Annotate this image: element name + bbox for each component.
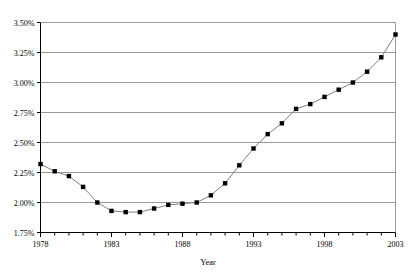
data-point-marker bbox=[81, 185, 85, 189]
data-point-marker bbox=[53, 169, 57, 173]
y-tick-label: 2.75% bbox=[14, 109, 35, 118]
x-tick-label: 1983 bbox=[104, 240, 120, 249]
data-point-marker bbox=[379, 55, 383, 59]
data-point-marker bbox=[322, 95, 326, 99]
y-tick-label: 3.50% bbox=[14, 19, 35, 28]
data-point-marker bbox=[195, 200, 199, 204]
data-point-marker bbox=[38, 162, 42, 166]
line-chart: 1.75%2.00%2.25%2.50%2.75%3.00%3.25%3.50%… bbox=[0, 0, 416, 275]
data-point-marker bbox=[237, 163, 241, 167]
y-tick-label: 2.00% bbox=[14, 199, 35, 208]
x-tick-label: 1978 bbox=[33, 240, 49, 249]
x-tick-label: 1998 bbox=[317, 240, 333, 249]
x-axis-title: Year bbox=[200, 257, 216, 267]
data-point-marker bbox=[308, 102, 312, 106]
y-tick-label: 2.50% bbox=[14, 139, 35, 148]
data-point-marker bbox=[337, 88, 341, 92]
data-point-marker bbox=[365, 70, 369, 74]
data-point-marker bbox=[152, 206, 156, 210]
y-tick-label: 3.25% bbox=[14, 49, 35, 58]
y-tick-label: 1.75% bbox=[14, 229, 35, 238]
data-point-marker bbox=[209, 193, 213, 197]
data-point-marker bbox=[280, 121, 284, 125]
data-point-marker bbox=[223, 181, 227, 185]
y-tick-label: 3.00% bbox=[14, 79, 35, 88]
data-point-marker bbox=[124, 210, 128, 214]
data-point-marker bbox=[294, 107, 298, 111]
x-tick-label: 2003 bbox=[388, 240, 404, 249]
data-point-marker bbox=[251, 146, 255, 150]
x-tick-label: 1993 bbox=[246, 240, 262, 249]
data-point-marker bbox=[180, 202, 184, 206]
data-point-marker bbox=[266, 132, 270, 136]
data-point-marker bbox=[393, 32, 397, 36]
chart-canvas: 1.75%2.00%2.25%2.50%2.75%3.00%3.25%3.50%… bbox=[0, 0, 416, 275]
data-point-marker bbox=[95, 200, 99, 204]
data-point-marker bbox=[67, 174, 71, 178]
chart-background bbox=[0, 0, 416, 275]
y-tick-label: 2.25% bbox=[14, 169, 35, 178]
data-point-marker bbox=[166, 203, 170, 207]
data-point-marker bbox=[138, 210, 142, 214]
x-tick-label: 1988 bbox=[175, 240, 191, 249]
data-point-marker bbox=[351, 80, 355, 84]
data-point-marker bbox=[109, 209, 113, 213]
